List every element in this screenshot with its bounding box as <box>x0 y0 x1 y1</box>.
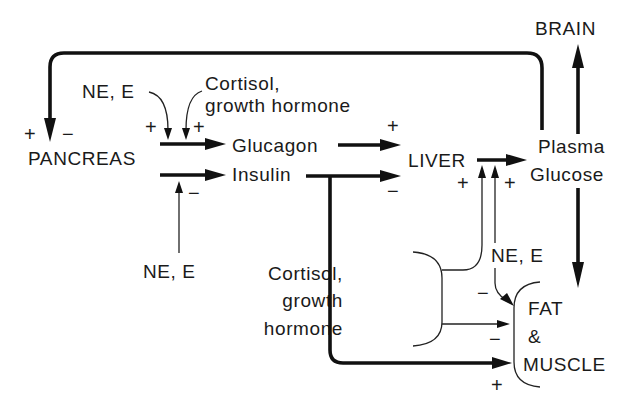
glucose-regulation-diagram: BRAIN PANCREAS Glucagon Insulin LIVER Pl… <box>0 0 639 419</box>
arrowhead-ne-e-bottom <box>175 181 183 193</box>
arrowhead-brain <box>572 44 584 68</box>
pancreas-label: PANCREAS <box>28 148 136 169</box>
sign-liver-ne-e: + <box>504 172 516 194</box>
sign-fat-insulin: + <box>491 374 503 396</box>
sign-liver-cortisol: + <box>457 172 469 194</box>
plasma-glucose-label-line2: Glucose <box>530 164 604 185</box>
glucagon-label: Glucagon <box>232 135 318 156</box>
ne-e-top-label: NE, E <box>82 81 135 102</box>
arrowhead-cortisol-fat <box>497 320 510 328</box>
sign-pancreas-plus: + <box>24 123 36 145</box>
arrowhead-glucagon <box>205 138 226 150</box>
arrowhead-ne-e-liver <box>491 165 499 178</box>
plasma-glucose-label-line1: Plasma <box>538 136 605 157</box>
arrowhead-glucagon-liver <box>380 139 401 151</box>
sign-glucagon-cortisol: + <box>193 116 205 138</box>
fat-muscle-label-line2: & <box>528 326 541 347</box>
arrowhead-fat-muscle <box>572 262 584 288</box>
arrowhead-cortisol-liver <box>478 165 486 178</box>
arrow-ne-e-right-to-fat <box>495 268 506 300</box>
sign-glucagon-ne-e: + <box>145 116 157 138</box>
cortisol-top-label-line1: Cortisol, <box>205 73 280 94</box>
sign-glucagon-to-liver: + <box>387 115 399 137</box>
arrowhead-insulin-fat <box>492 357 512 369</box>
arrowhead-insulin <box>205 169 226 181</box>
sign-fat-cortisol: − <box>489 328 501 350</box>
sign-pancreas-minus: − <box>62 123 74 145</box>
liver-label: LIVER <box>408 150 466 171</box>
feedback-arrowhead <box>44 118 56 142</box>
cortisol-bottom-label-line2: growth <box>282 290 343 311</box>
cortisol-top-label-line2: growth hormone <box>205 95 351 116</box>
ne-e-bottom-label: NE, E <box>143 261 196 282</box>
arrowhead-cortisol-top <box>182 128 190 140</box>
arrowhead-ne-e-top <box>164 128 172 140</box>
fat-muscle-label-line1: FAT <box>528 298 563 319</box>
fat-muscle-label-line3: MUSCLE <box>523 354 606 375</box>
arrowhead-liver-glucose <box>506 154 527 166</box>
sign-insulin-to-liver: − <box>387 180 399 202</box>
brain-label: BRAIN <box>535 18 596 39</box>
ne-e-right-label: NE, E <box>491 245 544 266</box>
sign-fat-ne-e: − <box>477 282 489 304</box>
cortisol-bottom-bracket <box>413 252 442 346</box>
arrowhead-ne-e-fat-tip <box>500 293 514 306</box>
insulin-label: Insulin <box>232 164 291 185</box>
sign-insulin-ne-e: − <box>188 182 200 204</box>
